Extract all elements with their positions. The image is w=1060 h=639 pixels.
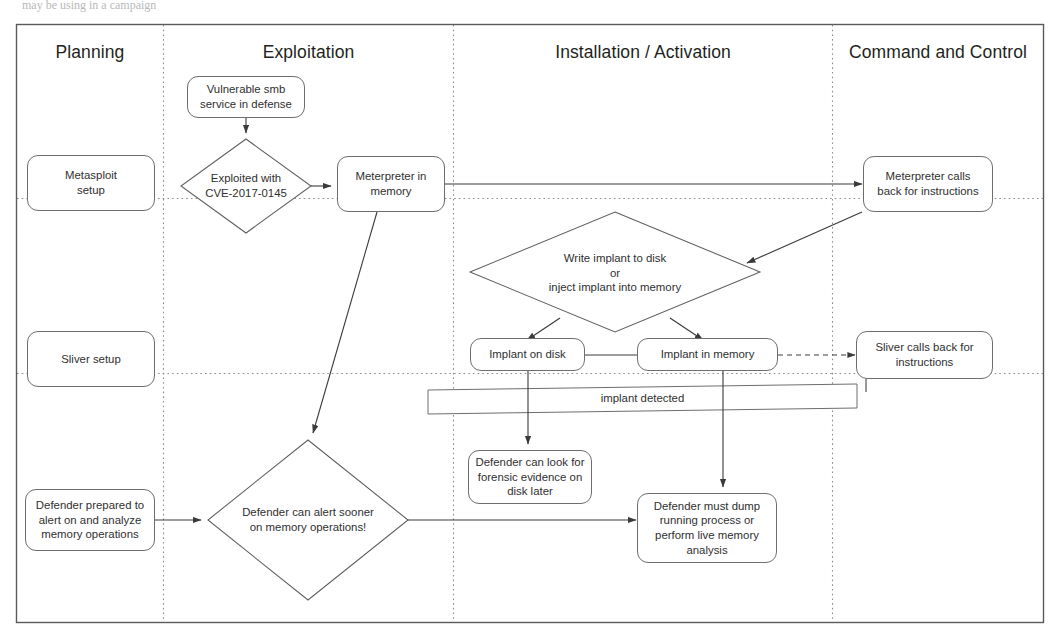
node-implant-in-memory[interactable]: Implant in memory xyxy=(637,338,778,371)
node-defender-must-dump-line2: running process or xyxy=(654,513,760,528)
node-forensic-evidence-line2: forensic evidence on xyxy=(476,470,585,485)
node-forensic-evidence-line1: Defender can look for xyxy=(476,455,585,470)
node-metasploit-setup-line2: setup xyxy=(65,183,117,198)
node-vulnerable-smb-line2: service in defense xyxy=(200,97,292,112)
node-sliver-setup[interactable]: Sliver setup xyxy=(27,331,155,387)
node-meterpreter-calls-back-line2: back for instructions xyxy=(877,184,978,199)
edge-meterpreter-to-alert xyxy=(313,212,377,433)
node-meterpreter-in-memory-line2: memory xyxy=(356,184,427,199)
diagram-frame xyxy=(17,25,1044,623)
node-sliver-calls-back-line1: Sliver calls back for xyxy=(875,340,973,355)
node-meterpreter-calls-back[interactable]: Meterpreter calls back for instructions xyxy=(863,156,993,212)
node-implant-detected-band: implant detected xyxy=(428,392,857,404)
node-defender-must-dump[interactable]: Defender must dump running process or pe… xyxy=(637,493,777,563)
node-vulnerable-smb[interactable]: Vulnerable smb service in defense xyxy=(187,76,305,118)
exploited-cve-diamond xyxy=(181,139,311,233)
node-defender-must-dump-line3: perform live memory xyxy=(654,528,760,543)
node-meterpreter-calls-back-line1: Meterpreter calls xyxy=(877,169,978,184)
node-forensic-evidence-line3: disk later xyxy=(476,484,585,499)
node-forensic-evidence[interactable]: Defender can look for forensic evidence … xyxy=(468,450,592,504)
edge-decision-to-memory xyxy=(670,318,703,340)
node-defender-prepared[interactable]: Defender prepared to alert on and analyz… xyxy=(25,489,155,551)
write-or-inject-diamond xyxy=(470,212,760,332)
lane-title-exploitation: Exploitation xyxy=(164,42,453,63)
node-implant-in-memory-label: Implant in memory xyxy=(661,347,755,362)
implant-detected-label: implant detected xyxy=(601,392,685,404)
edge-decision-to-disk xyxy=(527,318,560,340)
node-metasploit-setup-line1: Metasploit xyxy=(65,168,117,183)
diagram-canvas: may be using in a campaign xyxy=(0,0,1060,639)
node-sliver-setup-label: Sliver setup xyxy=(61,352,121,367)
node-defender-must-dump-line4: analysis xyxy=(654,543,760,558)
node-defender-must-dump-line1: Defender must dump xyxy=(654,499,760,514)
lane-title-planning: Planning xyxy=(17,42,163,63)
node-implant-on-disk[interactable]: Implant on disk xyxy=(470,338,585,371)
node-defender-prepared-line3: memory operations xyxy=(36,527,144,542)
node-implant-on-disk-label: Implant on disk xyxy=(489,347,566,362)
diagram-vector-layer xyxy=(0,0,1060,639)
node-metasploit-setup[interactable]: Metasploit setup xyxy=(27,155,155,211)
node-defender-prepared-line2: alert on and analyze xyxy=(36,513,144,528)
node-meterpreter-in-memory[interactable]: Meterpreter in memory xyxy=(337,156,445,212)
defender-alert-sooner-diamond xyxy=(208,440,408,600)
lane-title-installation: Installation / Activation xyxy=(454,42,832,63)
edge-callback-to-decision xyxy=(747,212,862,263)
node-sliver-calls-back-line2: instructions xyxy=(875,355,973,370)
node-defender-prepared-line1: Defender prepared to xyxy=(36,498,144,513)
node-vulnerable-smb-line1: Vulnerable smb xyxy=(200,82,292,97)
lane-title-command-and-control: Command and Control xyxy=(833,42,1043,63)
node-sliver-calls-back[interactable]: Sliver calls back for instructions xyxy=(856,331,993,379)
node-meterpreter-in-memory-line1: Meterpreter in xyxy=(356,169,427,184)
